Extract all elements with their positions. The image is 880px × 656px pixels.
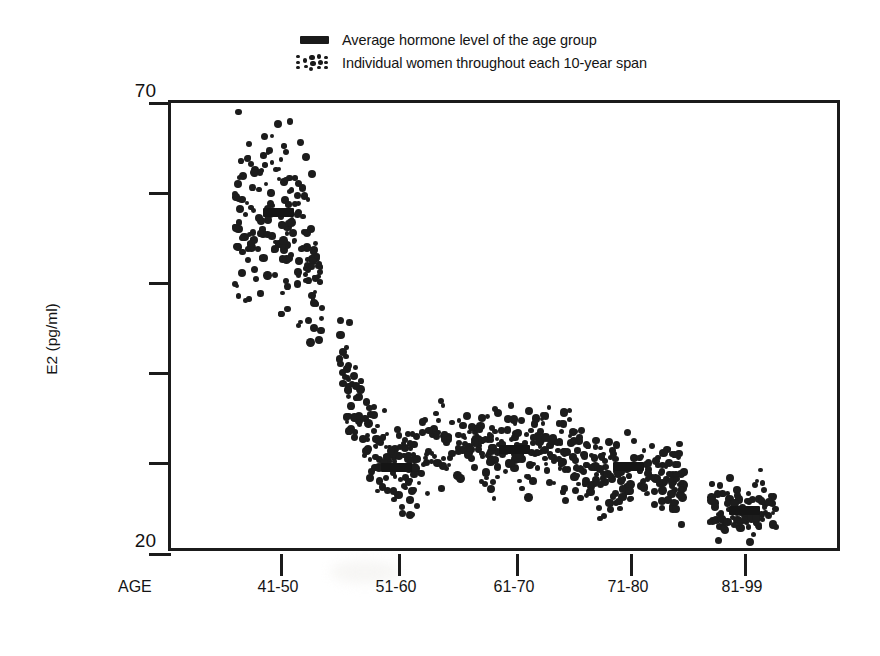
- x-axis-tick: [516, 554, 519, 576]
- legend-item-average: Average hormone level of the age group: [296, 28, 756, 51]
- mean-bar-swatch-icon: [296, 31, 332, 49]
- chart-legend: Average hormone level of the age group I…: [296, 28, 756, 74]
- chart-figure: Average hormone level of the age group I…: [0, 0, 880, 656]
- x-axis-tick: [744, 554, 747, 576]
- x-tick-label-71-80: 71-80: [583, 578, 673, 596]
- legend-label-individual: Individual women throughout each 10-year…: [342, 55, 647, 71]
- y-axis-tick: [149, 102, 171, 105]
- y-axis-title: E2 (pg/ml): [43, 269, 61, 409]
- dot-cloud-swatch-icon: [296, 54, 332, 72]
- legend-label-average: Average hormone level of the age group: [342, 32, 597, 48]
- y-axis-tick: [149, 372, 171, 375]
- x-tick-label-61-70: 61-70: [469, 578, 559, 596]
- legend-item-individual: Individual women throughout each 10-year…: [296, 51, 756, 74]
- y-axis-tick: [149, 282, 171, 285]
- y-tick-label-70: 70: [104, 80, 156, 102]
- x-axis-tick: [630, 554, 633, 576]
- x-tick-label-81-99: 81-99: [697, 578, 787, 596]
- y-axis-tick: [149, 553, 171, 556]
- x-tick-label-41-50: 41-50: [233, 578, 323, 596]
- x-axis-tick: [398, 554, 401, 576]
- x-axis-tick: [280, 554, 283, 576]
- y-axis-tick: [149, 192, 171, 195]
- plot-frame: [168, 100, 840, 551]
- x-axis-title: AGE: [118, 578, 152, 596]
- y-axis-tick: [149, 462, 171, 465]
- x-tick-label-51-60: 51-60: [351, 578, 441, 596]
- y-tick-label-20: 20: [104, 530, 156, 552]
